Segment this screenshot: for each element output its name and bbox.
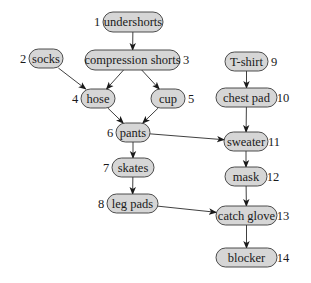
node-socks: socks2 [20,49,63,68]
node-hose: hose4 [72,89,115,108]
node-label: mask [233,170,260,184]
node-label: sweater [227,135,266,149]
edge-cup-to-pants [143,108,158,123]
node-label: leg pads [112,197,153,211]
order-number: 14 [277,251,290,265]
order-number: 5 [188,92,194,106]
nodes-layer: undershorts1socks2compression shorts3hos… [20,12,290,267]
edge-legpads-to-catchglove [158,206,216,212]
order-number: 11 [268,135,280,149]
node-label: undershorts [104,15,162,29]
node-label: pants [120,126,147,140]
edge-socks-to-hose [58,68,85,89]
order-number: 10 [277,91,290,105]
order-number: 3 [183,53,189,67]
node-compression: compression shorts3 [84,50,189,70]
node-cup: cup5 [151,89,194,108]
node-label: compression shorts [84,53,180,67]
order-number: 7 [103,161,109,175]
node-legpads: leg pads8 [98,194,158,213]
node-undershorts: undershorts1 [94,12,163,32]
node-skates: skates7 [103,158,154,177]
node-label: cup [159,92,177,106]
node-pants: pants6 [107,123,150,142]
node-mask: mask12 [225,167,279,186]
order-number: 1 [94,15,100,29]
node-sweater: sweater11 [224,132,280,151]
order-number: 6 [107,126,113,140]
order-number: 13 [277,209,290,223]
node-label: T-shirt [230,55,263,69]
dressing-order-diagram: undershorts1socks2compression shorts3hos… [0,0,311,283]
node-label: skates [118,161,149,175]
node-catchglove: catch glove13 [216,206,289,225]
edge-compression-to-hose [107,70,124,89]
node-chestpad: chest pad10 [216,88,289,107]
node-label: blocker [228,251,266,265]
edge-hose-to-pants [108,108,123,123]
order-number: 4 [72,92,79,106]
node-label: socks [32,52,60,66]
order-number: 8 [98,197,104,211]
order-number: 12 [267,170,280,184]
node-label: catch glove [218,209,276,223]
node-tshirt: T-shirt9 [225,52,277,71]
node-label: hose [87,92,110,106]
node-blocker: blocker14 [216,248,290,267]
edge-compression-to-cup [142,70,160,89]
node-label: chest pad [223,91,271,105]
edge-pants-to-sweater [150,134,224,140]
order-number: 9 [271,55,277,69]
order-number: 2 [20,52,26,66]
